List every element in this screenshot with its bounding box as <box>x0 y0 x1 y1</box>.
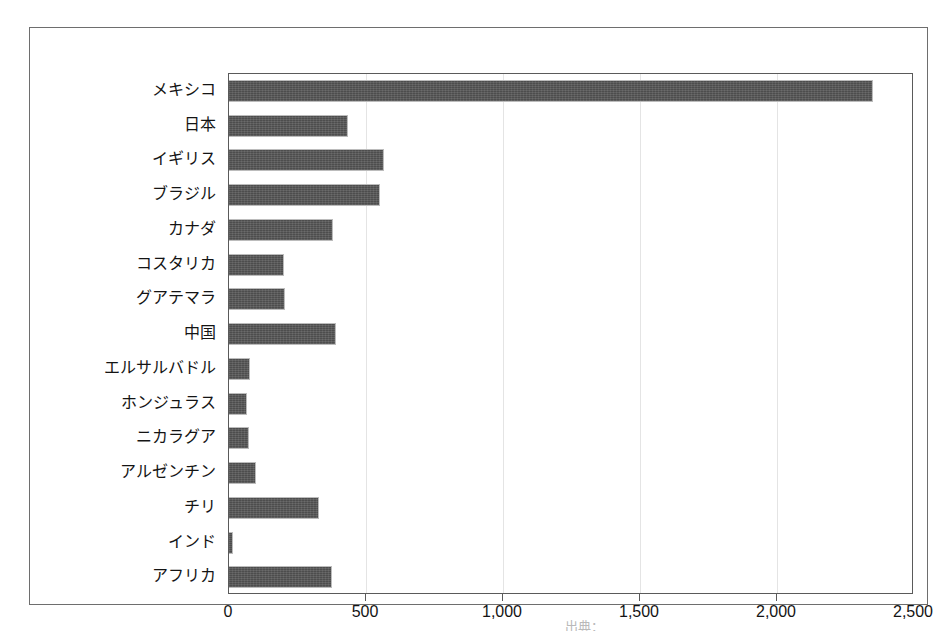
category-axis-labels: メキシコ日本イギリスブラジルカナダコスタリカグアテマラ中国エルサルバドルホンジュ… <box>59 73 222 594</box>
chart-frame: メキシコ日本イギリスブラジルカナダコスタリカグアテマラ中国エルサルバドルホンジュ… <box>29 27 928 605</box>
category-label: グアテマラ <box>136 281 216 316</box>
bar-row <box>229 178 912 213</box>
bar-row <box>229 213 912 248</box>
bar-row <box>229 74 912 109</box>
category-label: アルゼンチン <box>120 455 216 490</box>
category-label: ホンジュラス <box>121 386 216 421</box>
axis-tick <box>502 594 503 601</box>
category-label: エルサルバドル <box>104 351 216 386</box>
bar <box>229 532 233 554</box>
axis-tick <box>365 594 366 601</box>
bar <box>229 115 348 137</box>
bar-chart-figure: メキシコ日本イギリスブラジルカナダコスタリカグアテマラ中国エルサルバドルホンジュ… <box>0 0 947 631</box>
category-label: イギリス <box>152 142 216 177</box>
category-label: 中国 <box>184 316 216 351</box>
category-label: ニカラグア <box>136 420 216 455</box>
bar-row <box>229 282 912 317</box>
bar-row <box>229 352 912 387</box>
bars-layer <box>229 74 912 593</box>
bar-row <box>229 456 912 491</box>
category-label: コスタリカ <box>136 247 216 282</box>
bar <box>229 184 380 206</box>
category-label: アフリカ <box>152 559 216 594</box>
bar <box>229 427 249 449</box>
source-note: 出典： <box>565 619 947 631</box>
category-label: インド <box>168 525 216 560</box>
bar-row <box>229 143 912 178</box>
bar-row <box>229 387 912 422</box>
bar-row <box>229 109 912 144</box>
bar <box>229 497 319 519</box>
bar-row <box>229 317 912 352</box>
category-label: チリ <box>184 490 216 525</box>
bar <box>229 323 336 345</box>
bar <box>229 219 333 241</box>
axis-tick <box>776 594 777 601</box>
axis-tick-label: 500 <box>352 603 379 621</box>
bar <box>229 149 384 171</box>
axis-tick-label: 1,000 <box>482 603 522 621</box>
bar <box>229 80 873 102</box>
plot-area <box>228 73 913 594</box>
bar <box>229 358 250 380</box>
bar-row <box>229 491 912 526</box>
bar-row <box>229 248 912 283</box>
category-label: カナダ <box>168 212 216 247</box>
category-label: メキシコ <box>152 73 216 108</box>
category-label: ブラジル <box>152 177 216 212</box>
bar <box>229 288 285 310</box>
bar <box>229 254 284 276</box>
bar-row <box>229 560 912 595</box>
bar <box>229 393 247 415</box>
category-label: 日本 <box>184 108 216 143</box>
axis-tick-label: 0 <box>224 603 233 621</box>
axis-tick <box>639 594 640 601</box>
bar <box>229 566 332 588</box>
bar-row <box>229 526 912 561</box>
bar-row <box>229 421 912 456</box>
bar <box>229 462 256 484</box>
